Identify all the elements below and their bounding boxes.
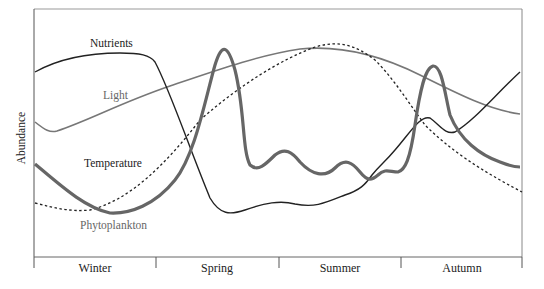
light-label: Light bbox=[103, 89, 128, 101]
phytoplankton-label: Phytoplankton bbox=[80, 219, 147, 231]
nutrients-label: Nutrients bbox=[90, 37, 133, 49]
x-tick-spring: Spring bbox=[156, 261, 278, 276]
temperature-line bbox=[35, 44, 522, 211]
x-tick-summer: Summer bbox=[279, 261, 401, 276]
y-axis-label: Abundance bbox=[15, 103, 27, 173]
chart-svg bbox=[0, 0, 544, 289]
nutrients-line bbox=[35, 53, 520, 213]
x-tick-autumn: Autumn bbox=[401, 261, 523, 276]
x-tick-winter: Winter bbox=[34, 261, 156, 276]
temperature-label: Temperature bbox=[84, 157, 142, 169]
